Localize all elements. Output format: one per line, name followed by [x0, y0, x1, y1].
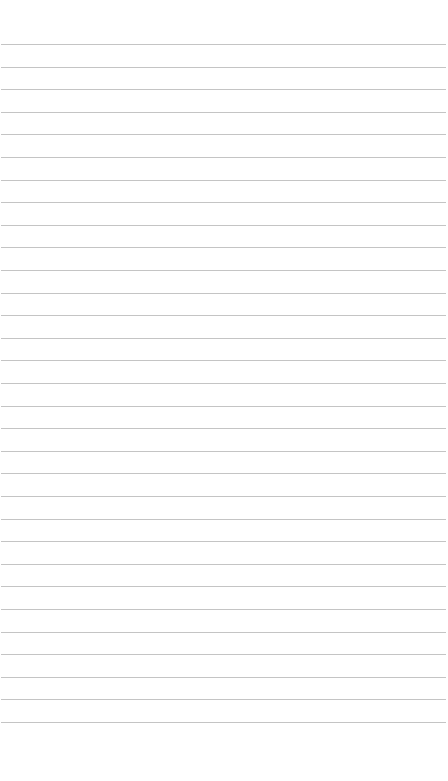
ruled-line	[1, 247, 446, 248]
ruled-line	[1, 428, 446, 429]
ruled-line	[1, 519, 446, 520]
ruled-line	[1, 293, 446, 294]
ruled-line	[1, 112, 446, 113]
ruled-line	[1, 202, 446, 203]
lined-paper-page	[0, 0, 448, 781]
ruled-line	[1, 338, 446, 339]
ruled-line	[1, 473, 446, 474]
ruled-line	[1, 180, 446, 181]
ruled-line	[1, 225, 446, 226]
ruled-line	[1, 89, 446, 90]
ruled-line	[1, 632, 446, 633]
ruled-line	[1, 654, 446, 655]
ruled-line	[1, 699, 446, 700]
ruled-line	[1, 383, 446, 384]
ruled-line	[1, 67, 446, 68]
ruled-line	[1, 677, 446, 678]
ruled-line	[1, 270, 446, 271]
ruled-line	[1, 44, 446, 45]
ruled-line	[1, 451, 446, 452]
ruled-line	[1, 541, 446, 542]
ruled-line	[1, 586, 446, 587]
ruled-line	[1, 157, 446, 158]
ruled-line	[1, 722, 446, 723]
ruled-line	[1, 315, 446, 316]
ruled-line	[1, 360, 446, 361]
ruled-line	[1, 134, 446, 135]
ruled-line	[1, 406, 446, 407]
ruled-line	[1, 564, 446, 565]
ruled-line	[1, 609, 446, 610]
ruled-line	[1, 496, 446, 497]
